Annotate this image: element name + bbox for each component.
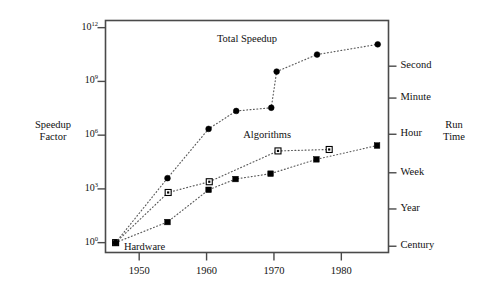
data-point-marker	[375, 41, 381, 47]
right-tick-label: Year	[401, 202, 420, 214]
y-tick-label: 109	[58, 74, 98, 85]
marker-core	[277, 150, 279, 152]
data-point-marker	[374, 143, 380, 149]
y-tick-exponent: 9	[95, 73, 98, 80]
data-point-marker	[314, 52, 320, 58]
data-point-marker	[268, 105, 274, 111]
right-tick-label: Minute	[401, 91, 431, 103]
data-point-marker	[233, 176, 239, 182]
x-tick-label: 1970	[249, 265, 299, 277]
y-tick-mantissa: 10	[85, 236, 95, 247]
chart-series-group	[113, 41, 381, 245]
y-tick-label: 100	[58, 236, 98, 247]
marker-core	[167, 191, 169, 193]
marker-core	[208, 181, 210, 183]
right-axis-title-line1: Run	[432, 119, 476, 131]
series-annotation-total-speedup: Total Speedup	[202, 33, 292, 45]
right-tick-label: Hour	[401, 127, 423, 139]
right-axis-title-line2: Time	[432, 131, 476, 143]
data-point-marker	[233, 108, 239, 114]
y-tick-mantissa: 10	[85, 74, 95, 85]
data-point-marker	[206, 187, 212, 193]
y-axis-title: Speedup Factor	[14, 119, 92, 143]
chart-series	[113, 41, 381, 245]
chart-series	[113, 143, 380, 246]
y-tick-mantissa: 10	[82, 21, 92, 32]
y-tick-exponent: 6	[95, 127, 98, 134]
y-tick-exponent: 0	[95, 234, 98, 241]
data-point-marker	[314, 157, 320, 163]
chart-tick-marks	[98, 28, 397, 261]
data-point-marker	[274, 69, 280, 75]
marker-core	[328, 148, 330, 150]
chart-figure: 1001031061091012 1950196019701980 Second…	[0, 0, 481, 294]
y-axis-title-line2: Factor	[14, 131, 92, 143]
data-point-marker	[165, 219, 171, 225]
series-line	[116, 149, 330, 242]
series-annotation-algorithms: Algorithms	[222, 129, 312, 141]
series-annotation-hardware: Hardware	[100, 241, 190, 253]
data-point-marker	[268, 171, 274, 177]
data-point-marker	[206, 126, 212, 132]
y-tick-label: 103	[58, 182, 98, 193]
data-point-marker	[165, 175, 171, 181]
right-axis-title: Run Time	[432, 119, 476, 143]
chart-series	[113, 146, 333, 245]
series-line	[116, 44, 378, 242]
right-tick-label: Week	[401, 166, 425, 178]
x-tick-label: 1960	[182, 265, 232, 277]
y-tick-exponent: 12	[92, 19, 99, 26]
y-tick-exponent: 3	[95, 181, 98, 188]
y-tick-mantissa: 10	[85, 182, 95, 193]
x-tick-label: 1980	[316, 265, 366, 277]
right-tick-label: Second	[401, 59, 432, 71]
y-tick-label: 1012	[58, 21, 98, 32]
y-axis-title-line1: Speedup	[14, 119, 92, 131]
x-tick-label: 1950	[114, 265, 164, 277]
right-tick-label: Century	[401, 239, 435, 251]
